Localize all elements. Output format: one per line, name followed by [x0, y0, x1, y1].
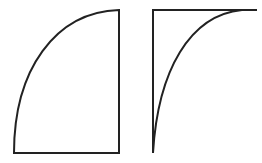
convex-quarter-outline: [14, 10, 119, 153]
concave-quarter-shape: [153, 10, 257, 153]
concave-quarter-frame: [153, 10, 257, 153]
concave-quarter-curve: [153, 10, 242, 153]
diagram-svg: [0, 0, 262, 163]
diagram-canvas: [0, 0, 262, 163]
convex-quarter-shape: [14, 10, 119, 153]
